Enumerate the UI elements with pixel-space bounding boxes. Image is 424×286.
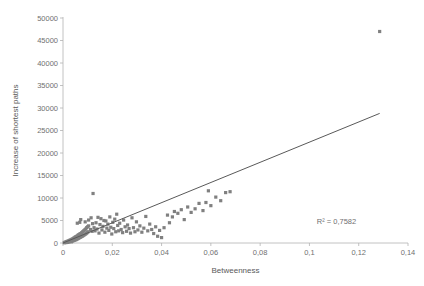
data-point bbox=[89, 216, 92, 219]
data-point bbox=[114, 230, 117, 233]
y-tick-label: 35000 bbox=[37, 81, 58, 90]
y-tick-label: 15000 bbox=[37, 171, 58, 180]
data-point bbox=[126, 223, 129, 226]
data-point bbox=[193, 207, 196, 210]
data-point bbox=[113, 218, 116, 221]
data-point bbox=[104, 219, 107, 222]
r-squared-annotation: R² = 0,7582 bbox=[317, 217, 356, 226]
data-point bbox=[121, 231, 124, 234]
data-point bbox=[92, 226, 95, 229]
y-tick-label: 30000 bbox=[37, 104, 58, 113]
data-point bbox=[79, 218, 82, 221]
data-point bbox=[146, 229, 149, 232]
data-point bbox=[173, 210, 176, 213]
data-point bbox=[209, 204, 212, 207]
scatter-chart: 0500010000150002000025000300003500040000… bbox=[0, 0, 424, 286]
data-point bbox=[96, 216, 99, 219]
data-point bbox=[156, 235, 159, 238]
x-tick-label: 0,06 bbox=[204, 248, 219, 257]
data-point bbox=[129, 232, 132, 235]
data-point bbox=[171, 215, 174, 218]
y-tick-label: 25000 bbox=[37, 126, 58, 135]
data-point bbox=[133, 230, 136, 233]
data-point bbox=[127, 227, 130, 230]
x-tick-label: 0,14 bbox=[401, 248, 416, 257]
x-tick-label: 0,12 bbox=[351, 248, 366, 257]
data-point bbox=[144, 215, 147, 218]
y-tick-label: 5000 bbox=[41, 216, 58, 225]
data-point bbox=[140, 231, 143, 234]
data-point bbox=[130, 216, 133, 219]
data-point bbox=[148, 223, 151, 226]
data-point bbox=[166, 214, 169, 217]
data-point bbox=[91, 192, 94, 195]
data-point bbox=[142, 227, 145, 230]
data-point bbox=[118, 222, 121, 225]
x-tick-label: 0,08 bbox=[253, 248, 268, 257]
x-tick-label: 0,1 bbox=[304, 248, 314, 257]
data-point bbox=[197, 202, 200, 205]
data-point bbox=[186, 205, 189, 208]
data-point bbox=[150, 228, 153, 231]
data-point bbox=[201, 209, 204, 212]
data-point bbox=[91, 222, 94, 225]
data-point bbox=[183, 218, 186, 221]
data-point bbox=[228, 190, 231, 193]
y-tick-label: 40000 bbox=[37, 59, 58, 68]
x-tick-label: 0,04 bbox=[154, 248, 169, 257]
data-point bbox=[108, 215, 111, 218]
data-point bbox=[97, 232, 100, 235]
data-point bbox=[378, 30, 381, 33]
data-point bbox=[109, 226, 112, 229]
data-point bbox=[110, 232, 113, 235]
data-point bbox=[207, 189, 210, 192]
data-point bbox=[180, 208, 183, 211]
data-points bbox=[63, 30, 382, 244]
data-point bbox=[160, 236, 163, 239]
data-point bbox=[224, 191, 227, 194]
data-point bbox=[99, 217, 102, 220]
data-point bbox=[168, 221, 171, 224]
data-point bbox=[219, 199, 222, 202]
data-point bbox=[112, 227, 115, 230]
y-tick-label: 0 bbox=[54, 239, 58, 248]
y-tick-label: 10000 bbox=[37, 194, 58, 203]
y-tick-label: 45000 bbox=[37, 36, 58, 45]
data-point bbox=[132, 226, 135, 229]
chart-axes: 0500010000150002000025000300003500040000… bbox=[37, 14, 415, 257]
data-point bbox=[158, 229, 161, 232]
data-point bbox=[120, 228, 123, 231]
data-point bbox=[100, 228, 103, 231]
data-point bbox=[98, 223, 101, 226]
data-point bbox=[87, 224, 90, 227]
x-tick-label: 0,02 bbox=[105, 248, 120, 257]
data-point bbox=[94, 221, 97, 224]
data-point bbox=[154, 225, 157, 228]
data-point bbox=[152, 232, 155, 235]
data-point bbox=[115, 213, 118, 216]
chart-svg: 0500010000150002000025000300003500040000… bbox=[0, 0, 424, 286]
data-point bbox=[84, 220, 87, 223]
data-point bbox=[138, 224, 141, 227]
x-tick-label: 0 bbox=[61, 248, 65, 257]
data-point bbox=[135, 220, 138, 223]
x-axis-title: Betweenness bbox=[211, 266, 259, 275]
data-point bbox=[107, 229, 110, 232]
data-point bbox=[204, 201, 207, 204]
y-tick-label: 50000 bbox=[37, 14, 58, 23]
data-point bbox=[176, 212, 179, 215]
y-tick-label: 20000 bbox=[37, 149, 58, 158]
data-point bbox=[103, 231, 106, 234]
data-point bbox=[190, 211, 193, 214]
data-point bbox=[214, 196, 217, 199]
data-point bbox=[162, 226, 165, 229]
data-point bbox=[136, 228, 139, 231]
y-axis-title: Increase of shortest paths bbox=[11, 84, 20, 176]
